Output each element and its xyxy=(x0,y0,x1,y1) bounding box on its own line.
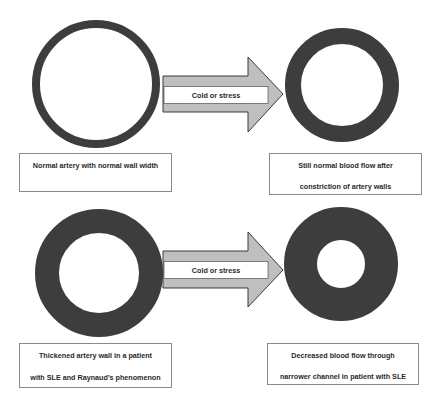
label-normal-artery: Normal artery with normal wall width xyxy=(19,153,172,192)
label-thickened-artery: Thickened artery wall in a patient with … xyxy=(19,343,172,388)
normal-artery-cross-section xyxy=(36,24,156,144)
label-line: constriction of artery walls xyxy=(270,183,421,190)
label-constricted-normal-artery: Still normal blood flow after constricti… xyxy=(269,153,422,195)
thickened-artery-cross-section xyxy=(47,221,151,325)
arrow-label-top: Cold or stress xyxy=(164,87,268,104)
label-line: Thickened artery wall in a patient xyxy=(20,352,171,359)
constricted-normal-artery-cross-section xyxy=(293,36,391,134)
label-narrowed-artery: Decreased blood flow through narrower ch… xyxy=(267,343,419,385)
label-line: Still normal blood flow after xyxy=(270,162,421,169)
raynaud-artery-diagram: Cold or stress Cold or stress Normal art… xyxy=(0,0,442,406)
label-line: Normal artery with normal wall width xyxy=(20,162,171,169)
narrowed-artery-cross-section xyxy=(301,224,382,305)
label-line: Decreased blood flow through xyxy=(268,352,418,359)
arrow-label-bottom: Cold or stress xyxy=(164,262,268,279)
label-line: with SLE and Raynaud’s phenomenon xyxy=(20,374,171,381)
label-line: narrower channel in patient with SLE xyxy=(268,373,418,380)
